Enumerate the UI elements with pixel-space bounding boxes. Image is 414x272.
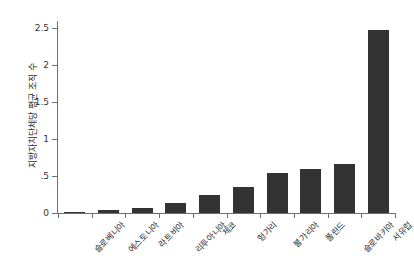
y-axis-title: 지방자치단체당 평균 조직 수 bbox=[28, 26, 39, 206]
x-tick-mark bbox=[227, 214, 228, 218]
x-tick-mark bbox=[395, 214, 396, 218]
x-tick-mark bbox=[58, 214, 59, 218]
bar bbox=[165, 203, 186, 213]
x-tick-label: 서유럽 bbox=[391, 220, 414, 243]
x-tick-label: 체코 bbox=[221, 220, 239, 238]
y-tick-mark bbox=[52, 28, 57, 29]
y-tick-mark bbox=[52, 176, 57, 177]
x-tick-mark bbox=[260, 214, 261, 218]
bar bbox=[267, 173, 288, 213]
x-tick-mark bbox=[294, 214, 295, 218]
bar bbox=[199, 195, 220, 213]
x-tick-label: 에스토니아 bbox=[127, 220, 162, 255]
y-tick-mark bbox=[52, 65, 57, 66]
chart-title: 중동부 유럽의 지방자치단체당 평균 조직 수 bbox=[55, 0, 395, 1]
bars-layer bbox=[58, 21, 395, 213]
y-tick-label: 0 bbox=[19, 209, 49, 218]
x-tick-mark bbox=[361, 214, 362, 218]
x-tick-mark bbox=[159, 214, 160, 218]
x-tick-label: 헝가리 bbox=[256, 220, 279, 243]
x-tick-label: 슬로베니아 bbox=[93, 220, 128, 255]
x-tick-mark bbox=[92, 214, 93, 218]
bar bbox=[300, 169, 321, 213]
y-tick-mark bbox=[52, 139, 57, 140]
x-tick-label: 라트비아 bbox=[157, 220, 186, 249]
y-tick-mark bbox=[52, 213, 57, 214]
bar bbox=[98, 210, 119, 213]
x-tick-label: 폴란드 bbox=[324, 220, 347, 243]
bar bbox=[334, 164, 355, 213]
x-tick-mark bbox=[193, 214, 194, 218]
bar bbox=[368, 30, 389, 213]
x-tick-label: 리투아니아 bbox=[194, 220, 229, 255]
plot-area bbox=[58, 21, 395, 213]
y-tick-mark bbox=[52, 102, 57, 103]
x-tick-mark bbox=[125, 214, 126, 218]
x-tick-mark bbox=[328, 214, 329, 218]
bar bbox=[132, 208, 153, 213]
x-tick-label: 불가리아 bbox=[292, 220, 321, 249]
bar bbox=[64, 212, 85, 213]
bar bbox=[233, 187, 254, 213]
x-tick-label: 슬로바키아 bbox=[362, 220, 397, 255]
